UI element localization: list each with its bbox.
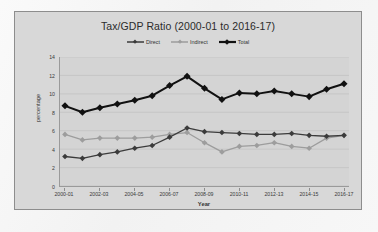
chart-title: Tax/GDP Ratio (2000-01 to 2016-17) [15,20,361,32]
legend-marker-direct-icon [127,39,144,45]
legend-item-total[interactable]: Total [219,39,249,45]
y-tick-label: 8 [39,110,55,116]
plot-area [59,57,349,187]
legend-label-total: Total [238,39,249,45]
y-tick-label: 2 [39,165,55,171]
y-axis-title: percentage [35,94,41,122]
x-tick-label: 2004-05 [117,191,151,197]
y-tick-label: 0 [39,184,55,190]
x-tick-mark [169,188,170,191]
y-tick-label: 4 [39,147,55,153]
chart-legend: Direct Indirect Total [15,39,361,45]
x-tick-label: 2000-01 [47,191,81,197]
x-tick-label: 2002-03 [82,191,116,197]
x-tick-label: 2006-07 [152,191,186,197]
y-tick-label: 6 [39,128,55,134]
legend-label-indirect: Indirect [190,39,208,45]
x-tick-label: 2014-15 [292,191,326,197]
x-tick-mark [64,188,65,191]
chart-container: Tax/GDP Ratio (2000-01 to 2016-17) Direc… [14,11,362,210]
x-tick-mark [309,188,310,191]
x-tick-mark [344,188,345,191]
x-tick-mark [239,188,240,191]
x-tick-mark [274,188,275,191]
plot-svg [60,57,349,186]
legend-item-indirect[interactable]: Indirect [171,39,208,45]
x-tick-mark [99,188,100,191]
x-tick-label: 2008-09 [187,191,221,197]
legend-marker-total-icon [219,39,236,45]
x-tick-mark [204,188,205,191]
x-tick-label: 2010-11 [222,191,256,197]
legend-label-direct: Direct [146,39,160,45]
x-axis-title: Year [59,201,349,207]
legend-marker-indirect-icon [171,39,188,45]
y-tick-label: 10 [39,91,55,97]
x-tick-label: 2012-13 [257,191,291,197]
legend-item-direct[interactable]: Direct [127,39,160,45]
page-background: Tax/GDP Ratio (2000-01 to 2016-17) Direc… [0,0,378,232]
x-tick-label: 2016-17 [327,191,361,197]
y-tick-label: 14 [39,54,55,60]
y-tick-label: 12 [39,73,55,79]
x-tick-mark [134,188,135,191]
